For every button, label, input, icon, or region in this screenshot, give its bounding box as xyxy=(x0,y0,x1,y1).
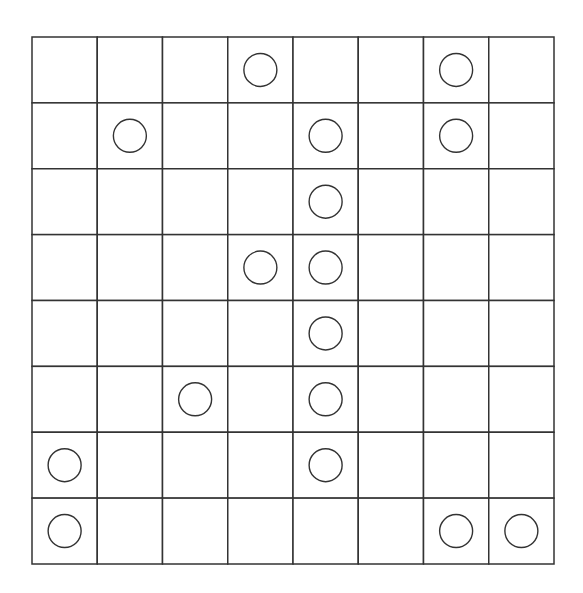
board-cell[interactable] xyxy=(358,235,423,301)
board-cell[interactable] xyxy=(163,169,228,235)
board-cell[interactable] xyxy=(489,103,554,169)
board-cell[interactable] xyxy=(293,235,358,301)
board-cell[interactable] xyxy=(97,37,162,103)
board-cell[interactable] xyxy=(163,366,228,432)
board-cell[interactable] xyxy=(424,366,489,432)
board-cell[interactable] xyxy=(163,301,228,367)
board-cell[interactable] xyxy=(228,498,293,564)
board-cell[interactable] xyxy=(293,432,358,498)
board-cell[interactable] xyxy=(489,169,554,235)
board-cell[interactable] xyxy=(424,103,489,169)
board-cell[interactable] xyxy=(358,366,423,432)
board-cell[interactable] xyxy=(424,169,489,235)
board-cell[interactable] xyxy=(293,366,358,432)
board-cell[interactable] xyxy=(228,169,293,235)
board-cell[interactable] xyxy=(489,432,554,498)
board-cell[interactable] xyxy=(97,103,162,169)
board-cell[interactable] xyxy=(424,37,489,103)
board-cell[interactable] xyxy=(32,432,97,498)
board-cell[interactable] xyxy=(32,37,97,103)
board-cell[interactable] xyxy=(97,366,162,432)
board-cell[interactable] xyxy=(228,301,293,367)
board-cell[interactable] xyxy=(293,103,358,169)
board-cell[interactable] xyxy=(228,366,293,432)
board-cell[interactable] xyxy=(32,366,97,432)
board-cell[interactable] xyxy=(293,37,358,103)
board-cell[interactable] xyxy=(163,432,228,498)
board-cell[interactable] xyxy=(228,432,293,498)
board-cell[interactable] xyxy=(97,301,162,367)
board-cell[interactable] xyxy=(163,103,228,169)
board-cell[interactable] xyxy=(424,498,489,564)
board-cell[interactable] xyxy=(424,432,489,498)
board-cell[interactable] xyxy=(424,235,489,301)
board-cell[interactable] xyxy=(32,169,97,235)
board-grid xyxy=(31,36,555,565)
board-cell[interactable] xyxy=(358,169,423,235)
board-cell[interactable] xyxy=(489,366,554,432)
board-cell[interactable] xyxy=(358,103,423,169)
board-cell[interactable] xyxy=(358,432,423,498)
board-cell[interactable] xyxy=(32,301,97,367)
board-cell[interactable] xyxy=(32,498,97,564)
board-cell[interactable] xyxy=(424,301,489,367)
board-cell[interactable] xyxy=(293,498,358,564)
board-cell[interactable] xyxy=(489,37,554,103)
board-cell[interactable] xyxy=(97,432,162,498)
board-cell[interactable] xyxy=(358,37,423,103)
board-cell[interactable] xyxy=(489,235,554,301)
board-cell[interactable] xyxy=(32,103,97,169)
board-cell[interactable] xyxy=(163,498,228,564)
board-cell[interactable] xyxy=(489,301,554,367)
board-cell[interactable] xyxy=(228,235,293,301)
board-cell[interactable] xyxy=(163,235,228,301)
board-cell[interactable] xyxy=(97,498,162,564)
board-cell[interactable] xyxy=(358,301,423,367)
board-cell[interactable] xyxy=(163,37,228,103)
board-cell[interactable] xyxy=(97,169,162,235)
game-board xyxy=(31,36,553,563)
board-cell[interactable] xyxy=(228,37,293,103)
board-cell[interactable] xyxy=(97,235,162,301)
board-cell[interactable] xyxy=(293,169,358,235)
board-cell[interactable] xyxy=(489,498,554,564)
board-cell[interactable] xyxy=(32,235,97,301)
board-cell[interactable] xyxy=(293,301,358,367)
board-cell[interactable] xyxy=(358,498,423,564)
board-cell[interactable] xyxy=(228,103,293,169)
